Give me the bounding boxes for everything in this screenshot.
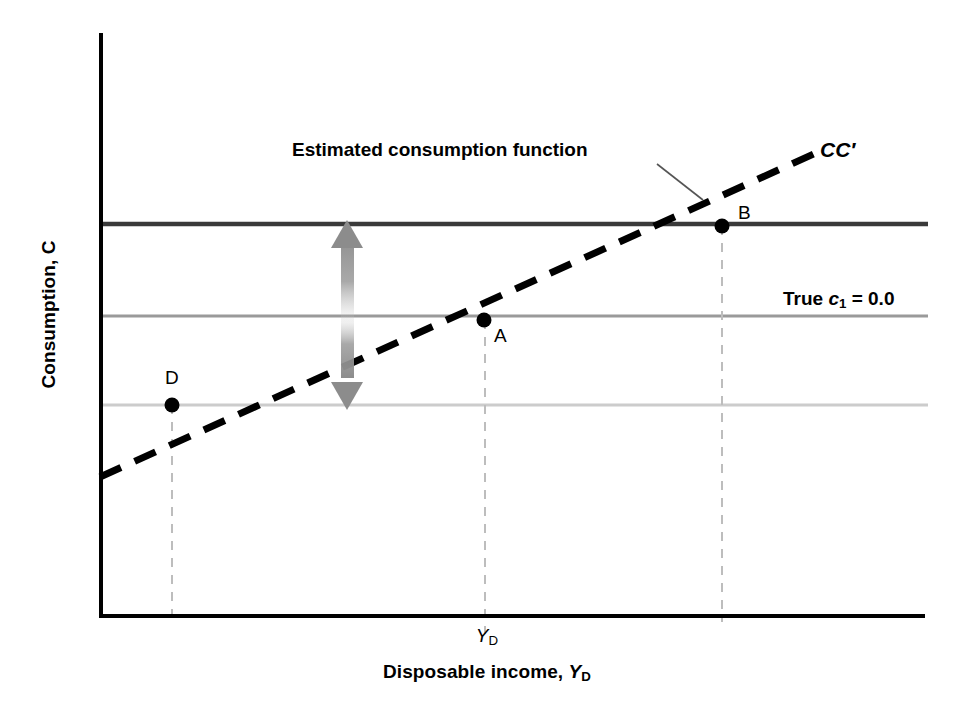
chart-svg	[0, 0, 974, 701]
data-point-d	[165, 398, 180, 413]
x-axis-title-subscript: D	[581, 669, 591, 684]
x-axis-title-text: Disposable income,	[383, 661, 569, 682]
data-point-b	[715, 219, 730, 234]
x-axis-title-variable: Y	[569, 661, 582, 682]
chart-canvas: Consumption, C Disposable income, YD YD …	[0, 0, 974, 701]
x-tick-label-yd: YD	[0, 626, 974, 647]
point-label-d: D	[165, 368, 179, 387]
annotation-true-variable: c	[828, 288, 839, 309]
x-axis-title: Disposable income, YD	[0, 662, 974, 683]
data-point-a	[477, 313, 492, 328]
y-axis-title: Consumption, C	[39, 205, 58, 425]
annotation-true-prefix: True	[783, 288, 828, 309]
annotation-cc-prime: CC′	[820, 139, 855, 160]
leader-line	[657, 164, 703, 200]
annotation-true-c1: True c1 = 0.0	[783, 289, 894, 310]
x-tick-variable: Y	[476, 625, 489, 646]
annotation-estimated-consumption-function: Estimated consumption function	[292, 140, 588, 159]
x-tick-subscript: D	[489, 633, 499, 648]
annotation-true-value: = 0.0	[846, 288, 894, 309]
point-label-a: A	[494, 326, 507, 345]
point-label-b: B	[738, 203, 751, 222]
